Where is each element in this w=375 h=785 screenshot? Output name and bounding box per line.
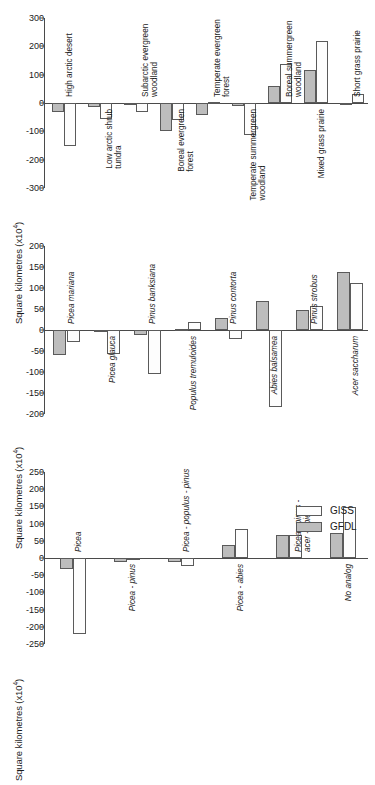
y-tick-mark [40,309,44,310]
y-axis-label: Square kilometres (x104) [12,188,26,358]
y-tick-mark [40,592,44,593]
category-label: Boreal summergreenwoodland [285,21,304,97]
bar-giss [310,306,323,330]
y-tick-mark [40,644,44,645]
bar-giss [269,330,282,407]
y-axis-label: Square kilometres (x104) [12,414,26,582]
category-label: Pinus contorta [229,272,238,324]
y-axis-label: Square kilometres (x104) [12,644,26,785]
bar-giss [188,322,201,330]
y-tick-label: -200 [26,622,44,632]
bar-gfdl [340,103,352,105]
y-tick-mark [40,246,44,247]
category-label: Low arctic shrubtundra [105,109,124,169]
category-label: Picea mariana [67,272,76,324]
y-tick-mark [40,575,44,576]
category-label-line: Subarctic evergreen [141,24,150,97]
bar-giss [350,283,363,330]
legend-swatch-giss [296,506,322,516]
bar-gfdl [124,103,136,105]
y-tick-mark [40,18,44,19]
y-axis-label-suffix: ) [13,679,24,682]
bar-giss [100,103,112,119]
y-tick-label: -100 [26,587,44,597]
bar-giss [181,558,194,566]
category-label: Picea - pinus [128,564,137,611]
y-tick-mark [40,414,44,415]
y-tick-label: 0 [39,98,44,108]
legend-swatch-gfdl [296,522,322,532]
y-axis-label-exponent: 4 [12,682,19,686]
bar-gfdl [196,103,208,115]
y-tick-label: -150 [26,388,44,398]
y-axis-label-text: Square kilometres (x10 [13,454,24,549]
category-label-line: Picea - populus - pinus [182,469,191,552]
bar-giss [64,103,76,146]
y-tick-mark [40,506,44,507]
category-label-line: Abies balsamea [270,336,279,394]
category-label-line: Populus tremuloides [189,336,198,410]
category-label-line: Boreal summergreen [285,21,294,97]
y-tick-mark [40,489,44,490]
category-label-line: Picea [74,532,83,552]
bar-gfdl [304,70,316,103]
bar-gfdl [268,86,280,103]
category-label-line: Acer saccharum [351,336,360,395]
y-axis-label-text: Square kilometres (x10 [13,686,24,781]
y-tick-mark [40,103,44,104]
category-label-line: Pinus banksiana [148,264,157,324]
bar-gfdl [53,330,66,355]
y-tick-label: 50 [34,304,44,314]
bar-gfdl [160,103,172,131]
category-label-line: Pinus contorta [229,272,238,324]
legend-label-giss: GISS [330,505,354,516]
bar-gfdl [52,103,64,112]
category-label: No analog [344,564,353,601]
bar-giss [148,330,161,374]
bar-gfdl [88,103,100,107]
bar-giss [235,529,248,558]
category-label: Picea glauca [108,336,117,383]
category-label: Subarctic evergreenwoodland [141,24,160,97]
category-label-line: Picea - pinus [128,564,137,611]
bar-gfdl [168,558,181,562]
y-tick-mark [40,523,44,524]
category-label: Picea [74,532,83,552]
category-label-line: Boreal evergreen [177,109,186,172]
bar-giss [289,535,302,558]
legend-item-giss[interactable]: GISS [296,505,369,516]
category-label-line: Picea glauca [108,336,117,383]
y-tick-mark [40,159,44,160]
bar-gfdl [276,535,289,558]
category-label-line: Short grass prairie [353,30,362,97]
y-tick-label: -200 [26,155,44,165]
category-label-line: woodland [258,109,267,200]
y-tick-label: 100 [29,70,44,80]
bar-giss [172,103,184,120]
category-label-line: tundra [114,109,123,169]
y-tick-mark [40,74,44,75]
category-label-line: Pinus strobus [310,274,319,324]
y-tick-label: -100 [26,367,44,377]
legend-item-gfdl[interactable]: GFDL [296,521,369,532]
zero-baseline [44,103,368,104]
y-tick-mark [40,330,44,331]
y-tick-label: -50 [31,570,44,580]
bar-gfdl [60,558,73,569]
y-tick-mark [40,626,44,627]
y-tick-mark [40,609,44,610]
y-tick-mark [40,372,44,373]
category-label-line: No analog [344,564,353,601]
category-label: High arctic desert [65,33,74,97]
y-tick-label: 0 [39,553,44,563]
y-axis-label-exponent: 4 [12,450,19,454]
category-label: Pinus strobus [310,274,319,324]
y-tick-label: -300 [26,183,44,193]
y-tick-label: -250 [26,639,44,649]
zero-baseline [44,558,368,559]
bar-giss [244,103,256,135]
bar-giss [67,330,80,342]
y-tick-label: -150 [26,605,44,615]
